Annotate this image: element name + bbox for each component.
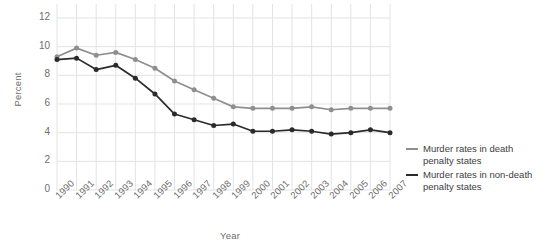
- x-axis-title: Year: [185, 230, 275, 241]
- legend-color-swatch-icon: [406, 174, 418, 176]
- x-axis-tick-label: 2006: [366, 177, 389, 200]
- legend-item-label: Murder rates in death penalty states: [423, 143, 542, 166]
- x-axis-tick-label: 2001: [268, 177, 291, 200]
- x-axis-tick-label: 2005: [347, 177, 370, 200]
- x-axis-tick-label: 1991: [73, 177, 96, 200]
- x-axis-tick-label: 1990: [53, 177, 76, 200]
- chart-figure: Percent 121086420 1990199119921993199419…: [0, 0, 542, 251]
- chart-legend: Murder rates in death penalty statesMurd…: [406, 143, 542, 195]
- x-axis-tick-label: 2000: [249, 177, 272, 200]
- legend-item[interactable]: Murder rates in non-death penalty states: [406, 169, 542, 192]
- x-axis-tick-labels: 1990199119921993199419951996199719981999…: [0, 0, 542, 251]
- legend-color-swatch-icon: [406, 148, 418, 150]
- x-axis-tick-label: 1993: [112, 177, 135, 200]
- legend-item-label: Murder rates in non-death penalty states: [423, 169, 542, 192]
- x-axis-tick-label: 2003: [308, 177, 331, 200]
- x-axis-tick-label: 1995: [151, 177, 174, 200]
- x-axis-tick-label: 1996: [171, 177, 194, 200]
- x-axis-tick-label: 1999: [229, 177, 252, 200]
- x-axis-tick-label: 1998: [210, 177, 233, 200]
- x-axis-tick-label: 2004: [327, 177, 350, 200]
- legend-item[interactable]: Murder rates in death penalty states: [406, 143, 542, 166]
- x-axis-tick-label: 1992: [92, 177, 115, 200]
- x-axis-tick-label: 1997: [190, 177, 213, 200]
- x-axis-tick-label: 1994: [131, 177, 154, 200]
- x-axis-tick-label: 2002: [288, 177, 311, 200]
